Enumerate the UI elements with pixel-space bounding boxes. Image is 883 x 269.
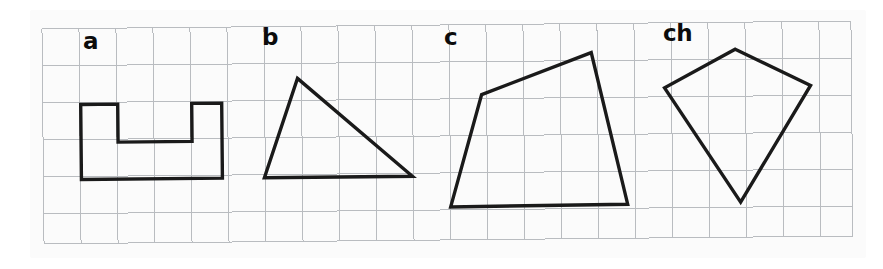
shape-a-u-shape[interactable] (81, 103, 223, 179)
shape-label-b: b (262, 26, 278, 49)
shapes-layer (0, 0, 883, 269)
shape-c-quadrilateral[interactable] (449, 52, 627, 207)
shape-b-triangle[interactable] (263, 77, 412, 177)
worksheet-canvas: a b c ch (0, 0, 883, 269)
shape-label-ch: ch (663, 22, 692, 45)
shape-label-c: c (444, 26, 457, 49)
shape-ch-kite[interactable] (664, 48, 811, 202)
shape-label-a: a (83, 30, 98, 53)
